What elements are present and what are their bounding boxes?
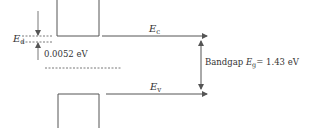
valence-band-well [58, 94, 99, 128]
valence-band-label: Ev [149, 81, 161, 94]
bandgap-label: Bandgap Eg= 1.43 eV [205, 57, 300, 69]
conduction-band-well [57, 0, 99, 36]
conduction-band-label: Ec [148, 23, 160, 36]
donor-energy-value: 0.0052 eV [44, 49, 88, 59]
donor-level-label: Ed [12, 33, 25, 46]
band-diagram: Ec Ev Ed 0.0052 eV Bandgap Eg= 1.43 eV [0, 0, 312, 128]
